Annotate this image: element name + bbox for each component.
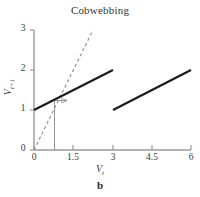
x-tick-label-1.5: 1.5 [63, 152, 83, 162]
x-axis-label-sub: t [102, 169, 104, 177]
x-tick-label-4.5: 4.5 [142, 152, 162, 162]
x-tick-label-3: 3 [103, 152, 123, 162]
y-axis-label-text: V [2, 89, 13, 95]
map-segment-left [34, 70, 113, 110]
x-tick-label-0: 0 [24, 152, 44, 162]
y-axis-label: Vt+1 [2, 65, 16, 109]
y-tick-label-2: 2 [16, 63, 30, 73]
panel-label: b [0, 179, 200, 191]
replacement-line [34, 30, 93, 150]
x-axis-label: Vt [0, 163, 200, 177]
y-tick-label-1: 1 [16, 103, 30, 113]
y-tick-label-3: 3 [16, 23, 30, 33]
map-segment-right [113, 70, 191, 110]
x-tick-label-6: 6 [181, 152, 200, 162]
cobwebbing-figure: Cobwebbing 0 1 2 [0, 0, 200, 197]
y-axis-label-sub: t+1 [8, 79, 16, 89]
